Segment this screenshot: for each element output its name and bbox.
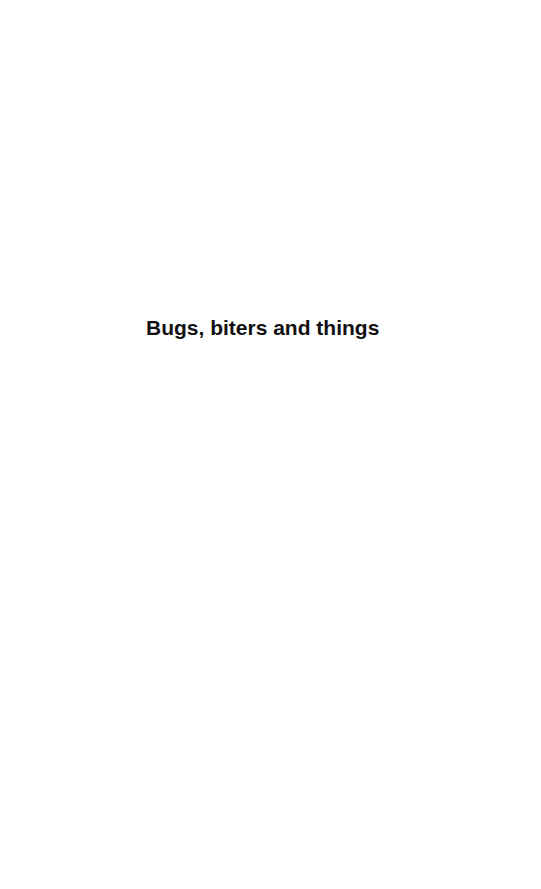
page-title: Bugs, biters and things xyxy=(146,314,379,342)
document-page: Bugs, biters and things xyxy=(0,0,541,889)
